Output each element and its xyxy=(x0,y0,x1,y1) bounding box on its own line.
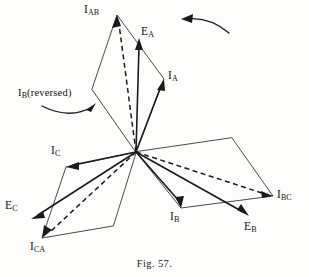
dashed-resultant-group xyxy=(50,24,265,232)
label-i-a: IA xyxy=(168,70,178,83)
solid-vector-group xyxy=(38,46,243,215)
i-b-reversed-pointer-head xyxy=(86,103,96,112)
label-i-c: IC xyxy=(51,145,60,158)
arrowhead-e-b xyxy=(237,204,249,216)
label-e-a: EA xyxy=(141,26,154,39)
right-parallelogram xyxy=(136,138,273,208)
rotation-arrow-head xyxy=(181,14,193,23)
label-e-b: EB xyxy=(244,221,257,234)
label-i-b-reversed-suffix: (reversed) xyxy=(27,87,72,98)
arrowhead-e-a xyxy=(135,38,143,50)
arrowhead-group xyxy=(31,15,273,238)
label-i-bc: IBC xyxy=(277,189,292,202)
figure-container: IAB EA IA IB(reversed) IC EC ICA IB EB I… xyxy=(0,0,309,277)
label-i-c-sub: C xyxy=(55,149,60,158)
label-i-ca: ICA xyxy=(30,241,45,254)
label-i-ab-sub: AB xyxy=(88,8,99,17)
arrowhead-i-ca xyxy=(42,225,52,238)
rotation-arrow-curve xyxy=(186,19,229,33)
label-i-ab: IAB xyxy=(84,4,99,17)
label-i-a-sub: A xyxy=(172,74,178,83)
label-i-b-sub: B xyxy=(174,215,179,224)
label-e-a-sub: A xyxy=(148,30,154,39)
label-i-ca-sub: CA xyxy=(34,245,45,254)
arrowhead-i-bc xyxy=(261,191,273,198)
vector-i-b xyxy=(136,152,179,201)
rotation-arrow xyxy=(181,14,229,33)
arrowhead-i-a xyxy=(157,79,165,91)
vector-i-a xyxy=(136,86,161,152)
label-i-b-reversed: IB(reversed) xyxy=(18,88,72,100)
arrowhead-e-c xyxy=(31,211,45,219)
phasor-diagram-svg xyxy=(0,0,309,277)
vector-i-ab-dashed xyxy=(119,24,136,152)
i-b-reversed-pointer xyxy=(42,103,96,113)
arrowhead-i-c xyxy=(66,162,79,170)
label-i-b: IB xyxy=(170,211,179,224)
label-e-c-sub: C xyxy=(12,204,17,213)
vector-i-ca-dashed xyxy=(50,152,136,232)
arrowhead-i-ab xyxy=(112,15,121,28)
i-b-reversed-pointer-curve xyxy=(42,106,92,113)
figure-caption: Fig. 57. xyxy=(0,258,309,269)
label-e-c: EC xyxy=(5,200,18,213)
label-e-b-sub: B xyxy=(251,225,256,234)
parallelogram-group xyxy=(42,15,273,238)
vector-e-a xyxy=(136,46,139,152)
label-i-bc-sub: BC xyxy=(281,193,292,202)
